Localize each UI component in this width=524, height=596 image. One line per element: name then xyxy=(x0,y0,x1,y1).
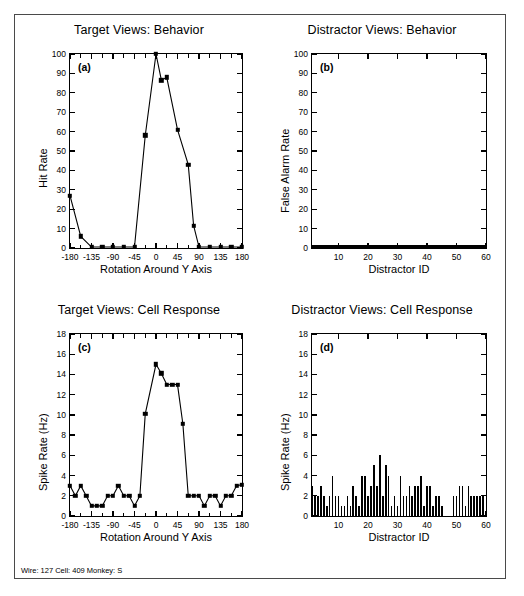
bar xyxy=(468,486,470,516)
axis-x-tick-label: -90 xyxy=(107,252,119,262)
bar xyxy=(320,486,322,516)
data-point-marker xyxy=(224,494,228,498)
data-point-marker xyxy=(116,483,120,487)
axis-y-tick-label: 60 xyxy=(57,127,66,137)
axis-x-tick-label: 50 xyxy=(452,252,461,262)
bar xyxy=(344,506,346,516)
data-point-marker xyxy=(165,382,169,386)
axis-y-tick-label: 0 xyxy=(303,511,308,521)
axis-y-tick-label: 8 xyxy=(303,430,308,440)
data-point-marker xyxy=(127,494,131,498)
bar xyxy=(409,486,411,516)
bar xyxy=(473,496,475,516)
axis-x-tick-label: -135 xyxy=(83,252,100,262)
data-point-marker xyxy=(170,382,174,386)
axis-y-tick-label: 10 xyxy=(57,410,66,420)
bar xyxy=(361,476,363,516)
data-point-marker xyxy=(165,75,169,79)
data-point-marker xyxy=(191,494,195,498)
panel-b-title: Distractor Views: Behavior xyxy=(267,23,497,37)
data-point-marker xyxy=(143,133,147,137)
axis-x-tick-label: 30 xyxy=(393,252,402,262)
data-point-marker xyxy=(197,494,201,498)
axis-x-tick-label: 20 xyxy=(363,520,372,530)
panel-c-title: Target Views: Cell Response xyxy=(25,303,253,317)
data-point-marker xyxy=(218,504,222,508)
axis-x-tick-label: 40 xyxy=(422,252,431,262)
bar xyxy=(314,496,316,516)
bar xyxy=(388,476,390,516)
data-point-marker xyxy=(100,504,104,508)
panel-d-title: Distractor Views: Cell Response xyxy=(267,303,497,317)
axis-y-tick-label: 0 xyxy=(303,243,308,253)
bar xyxy=(482,496,484,516)
data-point-marker xyxy=(68,483,72,487)
bar xyxy=(338,496,340,516)
axis-x-tick-label: -135 xyxy=(83,520,100,530)
zero-baseline xyxy=(312,245,486,248)
data-point-marker xyxy=(202,504,206,508)
data-point-marker xyxy=(138,494,142,498)
axis-x-tick-label: 0 xyxy=(154,252,159,262)
axis-y-tick-label: 20 xyxy=(57,204,66,214)
axis-y-tick-label: 18 xyxy=(299,329,308,339)
data-point-marker xyxy=(181,422,185,426)
panel-b-xlabel: Distractor ID xyxy=(311,263,487,275)
data-point-marker xyxy=(154,362,158,366)
bar xyxy=(364,476,366,516)
axis-y-tick-label: 40 xyxy=(57,165,66,175)
axis-x-tick-label: -180 xyxy=(61,520,78,530)
bar xyxy=(465,506,467,516)
panel-b-plot-area: 0102030405060708090100102030405060 (b) xyxy=(311,53,487,249)
bar xyxy=(400,476,402,516)
bar xyxy=(426,486,428,516)
bar xyxy=(441,506,443,516)
axis-y-tick-label: 50 xyxy=(57,146,66,156)
bar xyxy=(332,476,334,516)
axis-y-tick-label: 16 xyxy=(57,349,66,359)
data-point-marker xyxy=(132,245,136,249)
axis-x-tick-label: 180 xyxy=(235,520,249,530)
bar xyxy=(420,476,422,516)
axis-y-tick-label: 60 xyxy=(299,127,308,137)
bar xyxy=(429,486,431,516)
axis-y-tick-label: 100 xyxy=(52,49,66,59)
data-point-marker xyxy=(197,245,201,249)
series-line xyxy=(70,54,242,248)
data-point-marker xyxy=(229,245,233,249)
axis-x-tick-label: 60 xyxy=(481,252,490,262)
axis-y-tick-label: 16 xyxy=(299,349,308,359)
data-point-marker xyxy=(132,504,136,508)
panel-c-xlabel: Rotation Around Y Axis xyxy=(69,531,243,543)
bar xyxy=(414,486,416,516)
data-point-marker xyxy=(89,504,93,508)
axis-y-tick-label: 10 xyxy=(299,224,308,234)
axis-y-tick-label: 2 xyxy=(303,491,308,501)
axis-y-tick-label: 14 xyxy=(57,369,66,379)
axis-y-tick-label: 4 xyxy=(303,471,308,481)
data-point-marker xyxy=(79,483,83,487)
bar xyxy=(385,465,387,516)
data-point-marker xyxy=(186,494,190,498)
data-point-marker xyxy=(175,127,179,131)
data-point-marker xyxy=(240,482,244,486)
axis-y-tick-label: 20 xyxy=(299,204,308,214)
axis-y-tick-label: 100 xyxy=(294,49,308,59)
panel-c-ylabel: Spike Rate (Hz) xyxy=(37,413,49,491)
axis-y-tick-label: 30 xyxy=(57,185,66,195)
axis-y-tick-label: 30 xyxy=(299,185,308,195)
axis-y-tick-label: 12 xyxy=(57,390,66,400)
bar xyxy=(355,496,357,516)
bar xyxy=(329,496,331,516)
data-point-marker xyxy=(73,494,77,498)
bar xyxy=(476,496,478,516)
data-point-marker xyxy=(229,494,233,498)
bar xyxy=(347,496,349,516)
axis-y-tick-label: 90 xyxy=(299,68,308,78)
figure-footer-note: Wire: 127 Cell: 409 Monkey: S xyxy=(21,566,122,575)
axis-y-tick-label: 80 xyxy=(57,88,66,98)
panel-d-ylabel: Spike Rate (Hz) xyxy=(279,413,291,491)
bar xyxy=(435,496,437,516)
bar xyxy=(438,496,440,516)
bar xyxy=(311,486,313,516)
